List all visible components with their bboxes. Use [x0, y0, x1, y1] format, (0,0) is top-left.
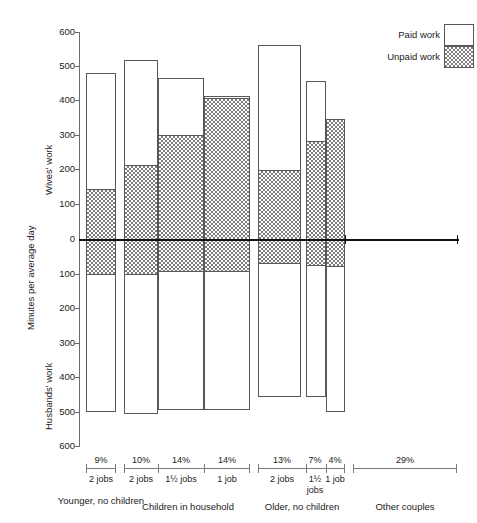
bar-segment-husbands-unpaid [124, 239, 158, 275]
y-tick-label-300-up: 300 [41, 130, 75, 140]
legend: Paid work Unpaid work [378, 24, 474, 74]
bar-segment-wives-paid [258, 45, 301, 171]
category-cap-older-div2 [326, 464, 327, 473]
category-cap-other-right [456, 464, 457, 473]
bar-segment-wives-unpaid [326, 119, 345, 240]
category-rule-other [353, 468, 457, 469]
y-tick-mark-400-up [75, 100, 80, 101]
legend-swatch-unpaid-work [444, 46, 474, 68]
bar-segment-wives-paid [124, 60, 158, 166]
bar-segment-wives-unpaid [86, 189, 116, 240]
y-tick-label-400-up: 400 [41, 95, 75, 105]
bar-segment-wives-unpaid [204, 98, 250, 240]
y-tick-mark-300-down [75, 343, 80, 344]
xtick-label-older-1job: 1 job [322, 474, 348, 485]
bar-segment-wives-paid [306, 81, 326, 142]
bar-younger-2jobs [86, 24, 116, 424]
category-cap-children-left [124, 464, 125, 473]
y-tick-label-300-down: 300 [41, 338, 75, 348]
category-cap-older-div1 [306, 464, 307, 473]
category-cap-older-right [344, 464, 345, 473]
y-tick-label-200-down: 200 [41, 303, 75, 313]
bar-children-1half-jobs [158, 24, 204, 424]
percent-older-2jobs: 13% [262, 455, 302, 465]
category-cap-children-div1 [158, 464, 159, 473]
bar-older-2jobs [258, 24, 301, 424]
bar-segment-husbands-unpaid [306, 239, 326, 266]
percent-children-2jobs: 10% [121, 455, 161, 465]
bar-segment-wives-unpaid [158, 135, 204, 240]
category-cap-younger-right [115, 464, 116, 473]
xtick-label-children-2jobs: 2 jobs [121, 474, 161, 485]
zero-tick-mid [345, 235, 346, 244]
y-tick-label-500-down: 500 [41, 407, 75, 417]
percent-other-couples: 29% [385, 455, 425, 465]
bar-segment-husbands-paid [86, 274, 116, 412]
y-tick-mark-100-down [75, 274, 80, 275]
bar-segment-wives-unpaid [124, 165, 158, 240]
bar-segment-husbands-paid [124, 274, 158, 414]
y-tick-label-600-down: 600 [41, 441, 75, 451]
legend-swatch-paid-work [444, 24, 474, 46]
y-tick-mark-600-down [75, 446, 80, 447]
category-cap-children-right [249, 464, 250, 473]
y-tick-mark-200-up [75, 169, 80, 170]
bar-segment-husbands-unpaid [86, 239, 116, 275]
zero-baseline [79, 239, 459, 241]
y-tick-label-500-up: 500 [41, 61, 75, 71]
y-tick-label-200-up: 200 [41, 164, 75, 174]
group-title-other: Other couples [355, 501, 455, 514]
category-cap-older-left [258, 464, 259, 473]
percent-older-1job: 4% [318, 455, 352, 465]
category-rule-younger [86, 468, 116, 469]
bar-older-1half-jobs [306, 24, 326, 424]
category-cap-other-left [353, 464, 354, 473]
bar-segment-wives-paid [158, 78, 204, 136]
group-title-children: Children in household [125, 501, 251, 514]
y-tick-mark-500-up [75, 66, 80, 67]
y-tick-mark-200-down [75, 308, 80, 309]
bar-segment-wives-paid [86, 73, 116, 190]
bar-segment-husbands-unpaid [158, 239, 204, 272]
category-cap-younger-left [86, 464, 87, 473]
bar-segment-husbands-paid [158, 271, 204, 410]
y-tick-label-0: 0 [41, 234, 75, 244]
xtick-label-children-1job: 1 job [207, 474, 247, 485]
y-tick-mark-300-up [75, 135, 80, 136]
y-tick-mark-100-up [75, 204, 80, 205]
bar-segment-husbands-unpaid [258, 239, 301, 264]
group-title-older: Older, no children [252, 501, 352, 514]
bar-segment-husbands-paid [326, 266, 345, 412]
work-time-diverging-bar-chart: Minutes per average day Wives' work Husb… [0, 0, 477, 523]
zero-tick-right [457, 235, 458, 244]
y-axis-title: Minutes per average day [25, 225, 36, 330]
y-tick-label-600-up: 600 [41, 27, 75, 37]
category-cap-children-div2 [204, 464, 205, 473]
legend-label-paid-work: Paid work [398, 29, 440, 40]
y-tick-mark-500-down [75, 412, 80, 413]
y-tick-mark-600-up [75, 32, 80, 33]
bar-segment-husbands-paid [306, 265, 326, 397]
bar-children-1job [204, 24, 250, 424]
percent-children-1half: 14% [161, 455, 201, 465]
xtick-label-older-2jobs: 2 jobs [262, 474, 302, 485]
category-rule-children [124, 468, 250, 469]
xtick-label-children-1half: 1½ jobs [161, 474, 201, 485]
percent-younger-2jobs: 9% [81, 455, 121, 465]
y-tick-label-100-up: 100 [41, 199, 75, 209]
bar-segment-husbands-paid [258, 263, 301, 397]
xtick-label-younger-2jobs: 2 jobs [81, 474, 121, 485]
bar-segment-husbands-unpaid [204, 239, 250, 272]
y-tick-mark-400-down [75, 377, 80, 378]
y-tick-label-400-down: 400 [41, 372, 75, 382]
percent-children-1job: 14% [207, 455, 247, 465]
bar-segment-wives-unpaid [306, 141, 326, 240]
bar-children-2jobs [124, 24, 158, 424]
bar-segment-wives-unpaid [258, 170, 301, 240]
bar-older-1job [326, 24, 345, 424]
bar-segment-husbands-unpaid [326, 239, 345, 267]
y-tick-label-100-down: 100 [41, 269, 75, 279]
category-rule-older [258, 468, 345, 469]
bar-segment-husbands-paid [204, 271, 250, 410]
legend-label-unpaid-work: Unpaid work [387, 51, 440, 62]
